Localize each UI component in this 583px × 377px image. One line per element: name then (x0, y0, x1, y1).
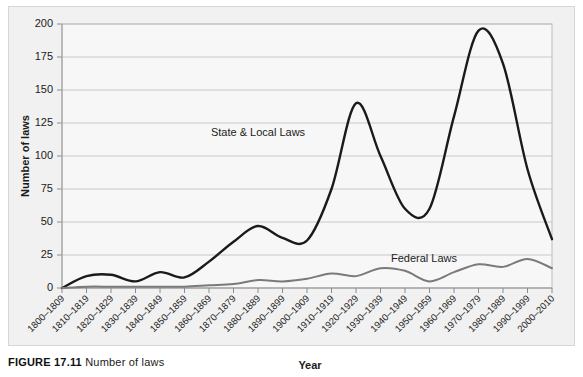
y-axis-tick-label: 75 (41, 182, 53, 194)
y-axis-tick-labels: 0255075100125150175200 (35, 17, 62, 293)
y-axis-tick-label: 150 (35, 83, 53, 95)
y-axis-tick-label: 0 (47, 281, 53, 293)
series-label-federal: Federal Laws (391, 252, 458, 264)
y-axis-tick-label: 25 (41, 248, 53, 260)
series-label-state-local: State & Local Laws (211, 126, 306, 138)
y-axis-tick-label: 200 (35, 17, 53, 29)
y-axis-tick-label: 175 (35, 50, 53, 62)
y-axis-tick-label: 100 (35, 149, 53, 161)
y-axis-tick-label: 125 (35, 116, 53, 128)
y-axis-tick-label: 50 (41, 215, 53, 227)
figure-caption-label: FIGURE 17.11 (8, 356, 82, 368)
figure-caption: FIGURE 17.11 Number of laws (8, 356, 575, 377)
x-axis-tickmarks (62, 288, 552, 293)
figure-root: 0255075100125150175200 1800–18091810–181… (0, 0, 583, 377)
figure-caption-text: Number of laws (85, 356, 164, 368)
y-axis-title: Number of laws (19, 115, 31, 197)
x-axis-tick-labels: 1800–18091810–18191820–18291830–18391840… (25, 293, 556, 334)
line-chart: 0255075100125150175200 1800–18091810–181… (0, 0, 583, 377)
